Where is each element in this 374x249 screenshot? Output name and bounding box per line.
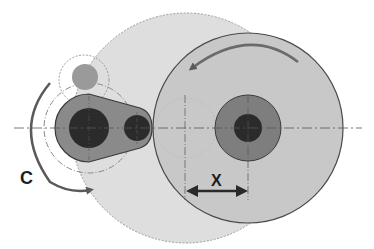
mechanism-diagram: C X bbox=[0, 0, 374, 249]
offset-label-x: X bbox=[211, 172, 222, 189]
small-pin bbox=[72, 64, 98, 90]
rotation-label-c: C bbox=[20, 168, 33, 188]
